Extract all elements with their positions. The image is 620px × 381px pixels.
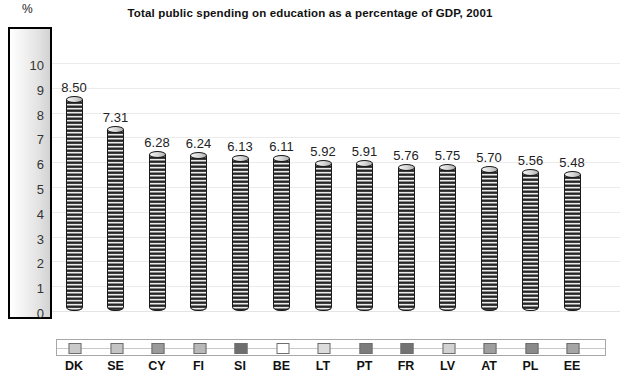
legend-swatch-fr[interactable]	[401, 343, 414, 354]
x-axis-category-label: DK	[65, 360, 83, 373]
chart-container: Total public spending on education as a …	[0, 0, 620, 381]
x-axis-category-label: PT	[357, 360, 373, 373]
legend-swatch-dk[interactable]	[69, 343, 82, 354]
bar-top-cap	[356, 160, 373, 167]
x-axis-category-label: SI	[234, 360, 246, 373]
y-axis-tick-label: 5	[37, 183, 44, 196]
gridline	[52, 137, 620, 138]
y-axis-tick-label: 7	[37, 133, 44, 146]
bar-value-label: 6.13	[227, 140, 252, 153]
y-axis-unit-label: %	[22, 2, 33, 16]
bar-top-cap	[522, 169, 539, 176]
bar-value-label: 5.70	[476, 151, 501, 164]
x-axis-category-label: FR	[398, 360, 415, 373]
legend-swatch-cy[interactable]	[152, 343, 165, 354]
bar-top-cap	[107, 126, 124, 133]
legend-swatch-be[interactable]	[276, 343, 289, 354]
legend-swatch-lv[interactable]	[442, 343, 455, 354]
bar[interactable]	[481, 170, 498, 311]
x-axis-category-label: LV	[440, 360, 455, 373]
chart-title: Total public spending on education as a …	[0, 7, 620, 19]
bar-value-label: 5.56	[518, 154, 543, 167]
y-axis-tick-label: 3	[37, 232, 44, 245]
y-axis-tick-label: 0	[37, 307, 44, 320]
bar-value-label: 6.24	[186, 137, 211, 150]
gridline	[52, 113, 620, 114]
bar-top-cap	[398, 164, 415, 171]
x-axis-category-label: LT	[316, 360, 330, 373]
bar[interactable]	[66, 100, 83, 311]
legend-swatch-ee[interactable]	[567, 343, 580, 354]
y-axis-panel: 109876543210	[8, 27, 52, 319]
bar-value-label: 5.75	[435, 149, 460, 162]
legend-swatch-fi[interactable]	[193, 343, 206, 354]
gridline	[52, 63, 620, 64]
x-axis-category-label: BE	[273, 360, 290, 373]
y-axis-tick-label: 1	[37, 282, 44, 295]
y-axis-tick-label: 9	[37, 83, 44, 96]
y-axis-tick-label: 10	[30, 59, 44, 72]
bar[interactable]	[232, 159, 249, 311]
bar[interactable]	[107, 130, 124, 311]
bar[interactable]	[273, 159, 290, 311]
y-axis-tick-label: 4	[37, 207, 44, 220]
x-axis-category-label: PL	[523, 360, 539, 373]
legend-swatch-se[interactable]	[110, 343, 123, 354]
legend-swatch-pl[interactable]	[525, 343, 538, 354]
legend-swatch-si[interactable]	[235, 343, 248, 354]
bar[interactable]	[564, 175, 581, 311]
bar-value-label: 6.11	[269, 140, 293, 153]
x-axis-category-label: AT	[481, 360, 497, 373]
legend-swatch-pt[interactable]	[359, 343, 372, 354]
gridline	[52, 88, 620, 89]
bar-top-cap	[564, 171, 581, 178]
bar[interactable]	[356, 164, 373, 311]
bar-value-label: 5.92	[310, 145, 335, 158]
gridline	[52, 311, 620, 312]
bar-top-cap	[273, 155, 290, 162]
bar-top-cap	[481, 166, 498, 173]
legend-swatch-at[interactable]	[484, 343, 497, 354]
bar-top-cap	[315, 160, 332, 167]
y-axis-tick-label: 6	[37, 158, 44, 171]
bar-value-label: 5.48	[559, 156, 584, 169]
bar-top-cap	[66, 96, 83, 103]
legend-strip	[56, 339, 606, 356]
bar-top-cap	[149, 151, 166, 158]
bar-value-label: 6.28	[144, 136, 169, 149]
bar[interactable]	[522, 173, 539, 311]
x-axis-category-label: EE	[564, 360, 581, 373]
legend-swatch-lt[interactable]	[318, 343, 331, 354]
bar[interactable]	[190, 156, 207, 311]
x-axis-category-label: CY	[148, 360, 165, 373]
bar-value-label: 5.91	[352, 145, 377, 158]
bar[interactable]	[439, 168, 456, 311]
x-axis-category-label: SE	[107, 360, 124, 373]
bar[interactable]	[149, 155, 166, 311]
bar[interactable]	[315, 164, 332, 311]
plot-area: 8.507.316.286.246.136.115.925.915.765.75…	[52, 27, 620, 319]
bar-top-cap	[439, 164, 456, 171]
bar-value-label: 8.50	[61, 81, 86, 94]
bar-value-label: 5.76	[393, 149, 418, 162]
bar-top-cap	[190, 152, 207, 159]
bar-top-cap	[232, 155, 249, 162]
x-axis-category-label: FI	[193, 360, 204, 373]
bar-value-label: 7.31	[103, 111, 128, 124]
y-axis-tick-label: 8	[37, 108, 44, 121]
y-axis-tick-label: 2	[37, 257, 44, 270]
bar[interactable]	[398, 168, 415, 311]
